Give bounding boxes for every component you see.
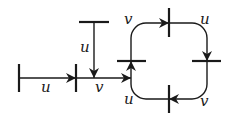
label-loop-bottom-left: u [124, 90, 134, 108]
label-loop-top-left: v [124, 10, 133, 28]
label-left-edge: u [41, 78, 51, 96]
label-loop-top-right: u [200, 10, 210, 28]
label-loop-bottom-right: v [200, 92, 209, 110]
diagram-canvas: u u v v u u v [0, 0, 227, 114]
label-middle-edge: v [95, 78, 104, 96]
label-vertical-edge: u [80, 38, 90, 56]
